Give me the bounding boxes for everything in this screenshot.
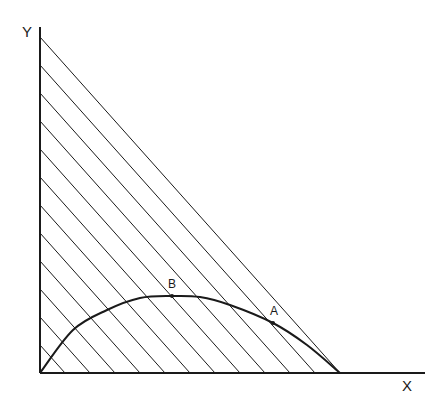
hatch-line	[40, 261, 140, 373]
point-b-marker	[170, 294, 174, 298]
hatch-line	[40, 317, 90, 373]
x-axis-label: X	[402, 377, 412, 394]
hatch-line	[40, 289, 115, 373]
hatch-line	[40, 149, 240, 373]
point-a-label: A	[270, 304, 278, 318]
hatch-lines	[40, 37, 340, 373]
hatch-line	[40, 233, 165, 373]
hatch-line	[40, 177, 215, 373]
curve	[40, 296, 340, 373]
hatch-line	[40, 37, 340, 373]
point-b-label: B	[168, 277, 176, 291]
y-axis-label: Y	[22, 23, 32, 40]
diagram: BA X Y	[0, 0, 448, 416]
point-a-marker	[271, 321, 275, 325]
hatch-line	[40, 121, 265, 373]
hatch-line	[40, 65, 315, 373]
